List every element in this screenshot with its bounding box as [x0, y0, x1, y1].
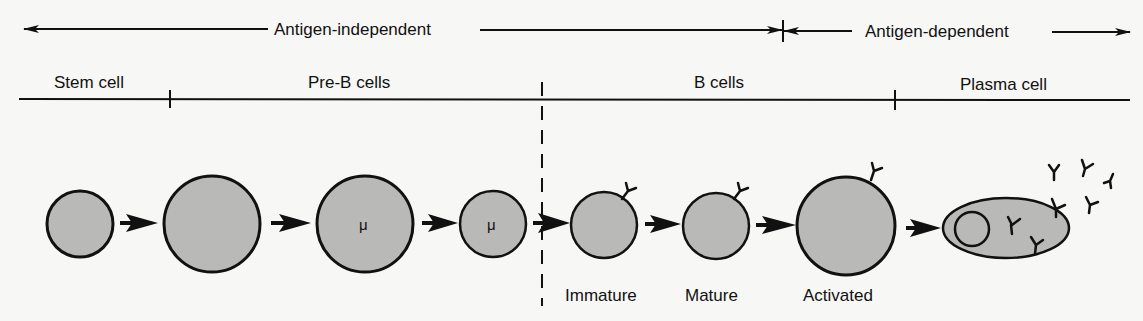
phase-label-antigen-dependent: Antigen-dependent — [865, 22, 1009, 41]
timeline-axis — [19, 99, 1130, 100]
cell-activated: Activated — [797, 163, 895, 305]
stage-label-plasma-cell: Plasma cell — [960, 75, 1047, 94]
stage-label-stem-cell: Stem cell — [54, 73, 124, 92]
antibody-icon — [1049, 165, 1059, 180]
secreted-antibodies — [1049, 160, 1113, 213]
arrow-icon — [120, 214, 158, 232]
cell-body — [683, 193, 749, 259]
cell-body — [797, 177, 895, 275]
cell-stem — [47, 191, 113, 257]
stage-label-b-cells: B cells — [694, 73, 744, 92]
antibody-icon — [1104, 174, 1113, 188]
cell-pre-b-mu-large: μ — [317, 176, 413, 272]
antibody-icon — [734, 183, 748, 199]
phase-label-antigen-independent: Antigen-independent — [274, 20, 431, 39]
antibody-icon — [622, 183, 636, 199]
arrow-icon — [422, 214, 458, 232]
arrow-icon — [533, 213, 570, 233]
mu-marker: μ — [359, 216, 368, 233]
arrow-icon — [906, 219, 941, 237]
antibody-icon — [1086, 197, 1098, 213]
cell-body — [164, 176, 260, 272]
cell-label-mature: Mature — [685, 286, 738, 305]
cell-pre-b-large — [164, 176, 260, 272]
mu-marker: μ — [487, 216, 496, 233]
cell-immature: Immature — [565, 183, 637, 305]
stage-label-pre-b-cells: Pre-B cells — [308, 73, 390, 92]
cell-body — [47, 191, 113, 257]
phase-antigen-independent: Antigen-independent — [24, 20, 782, 39]
antibody-icon — [1082, 160, 1093, 176]
cell-pre-b-mu-small: μ — [460, 191, 526, 257]
phase-antigen-dependent: Antigen-dependent — [784, 22, 1130, 41]
plasma-cell-nucleus — [955, 212, 989, 246]
stage-timeline: Stem cell Pre-B cells B cells Plasma cel… — [19, 73, 1130, 110]
arrow-icon — [645, 215, 681, 233]
cell-label-activated: Activated — [803, 286, 873, 305]
b-cell-development-diagram: Antigen-independent Antigen-dependent St… — [0, 0, 1143, 321]
cell-mature: Mature — [683, 183, 749, 305]
cell-body — [571, 192, 637, 258]
cell-label-immature: Immature — [565, 286, 637, 305]
arrow-icon — [271, 214, 311, 232]
cell-plasma — [943, 198, 1069, 258]
antibody-icon — [871, 163, 882, 180]
arrow-icon — [756, 216, 796, 234]
